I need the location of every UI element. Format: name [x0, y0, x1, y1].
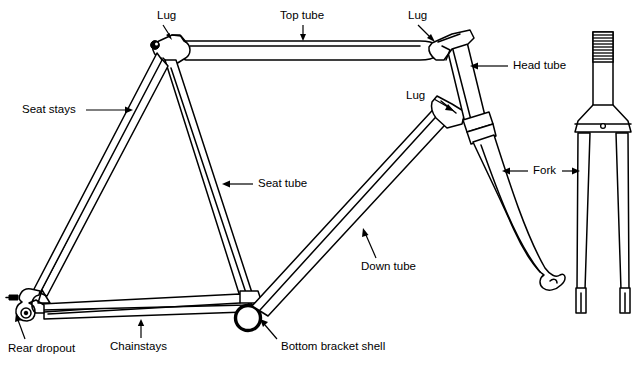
top-tube-body: [175, 41, 436, 60]
down-tube-highlight: [260, 108, 444, 310]
lug-seat-label: Lug: [157, 9, 176, 21]
fork-crown-bolt-hole: [601, 124, 606, 129]
down-tube-arrow-icon: [362, 228, 369, 237]
seat-binder-bolt: [151, 41, 160, 50]
label-down-tube: Down tube: [361, 228, 416, 272]
seat-tube-body: [165, 60, 256, 306]
fork-blade-front-right: [616, 133, 629, 290]
label-fork: Fork: [502, 164, 580, 176]
seat-stay-far: [33, 53, 162, 293]
seat-tube-label: Seat tube: [258, 177, 307, 189]
frame-diagram-canvas: Lug Top tube Lug Head tube Lug: [0, 0, 644, 367]
label-seat-tube: Seat tube: [222, 177, 307, 189]
down-tube-part: [252, 101, 456, 316]
fork-label: Fork: [533, 164, 556, 176]
label-head-tube: Head tube: [470, 59, 566, 71]
label-rear-dropout: Rear dropout: [8, 313, 76, 354]
fork-side-view-part: [473, 135, 565, 290]
lug-head-bottom-label: Lug: [406, 89, 425, 101]
bottom-bracket-shell-label: Bottom bracket shell: [281, 340, 385, 352]
bottom-bracket-shell-part: [236, 291, 263, 331]
seat-tube-arrow-icon: [222, 181, 230, 188]
label-chainstays: Chainstays: [110, 319, 167, 352]
top-tube-label: Top tube: [280, 9, 324, 21]
seat-stays-label: Seat stays: [22, 103, 76, 115]
fork-blade-front-left: [577, 133, 590, 290]
seat-stay-near: [40, 58, 168, 296]
seat-tube-highlight: [171, 68, 250, 305]
chainstays-part: [41, 294, 253, 319]
chainstays-label: Chainstays: [110, 340, 167, 352]
seat-stays-part: [33, 53, 168, 296]
head-tube-label: Head tube: [513, 59, 566, 71]
label-lug-head-top: Lug: [408, 9, 435, 42]
seat-tube-part: [165, 60, 256, 306]
lug-head-top-label: Lug: [408, 9, 427, 21]
seat-binder-bolt-hole: [155, 43, 158, 46]
dropout-axle-center: [24, 311, 28, 315]
down-tube-body: [252, 101, 456, 316]
bicycle-frame-diagram: Lug Top tube Lug Head tube Lug: [0, 0, 644, 367]
chainstays-arrow-icon: [138, 319, 144, 326]
label-seat-stays: Seat stays: [22, 103, 133, 115]
top-tube-part: [175, 41, 436, 60]
label-lug-head-bottom: Lug: [406, 89, 454, 111]
down-tube-label: Down tube: [361, 260, 416, 272]
bottom-bracket-shell-leader: [265, 325, 277, 339]
label-top-tube: Top tube: [280, 9, 324, 41]
rear-dropout-leader: [18, 320, 25, 339]
fork-steerer-threads: [593, 35, 613, 59]
lug-head-top-leader: [418, 25, 430, 37]
frame-assembly: [6, 30, 631, 331]
down-tube-leader: [366, 235, 376, 258]
fork-blade-side: [473, 135, 565, 290]
top-tube-arrow-icon: [300, 34, 306, 41]
fork-front-view-part: [575, 32, 631, 313]
label-bottom-bracket-shell: Bottom bracket shell: [260, 319, 385, 352]
rear-dropout-label: Rear dropout: [8, 342, 76, 354]
